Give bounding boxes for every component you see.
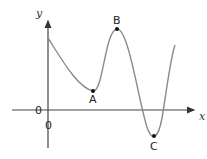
- function-graph: A B C x y 0 0: [0, 0, 207, 159]
- point-b-label: B: [113, 14, 121, 27]
- point-c-label: C: [150, 140, 158, 153]
- point-c: [152, 134, 156, 138]
- origin-label-left: 0: [35, 104, 42, 117]
- point-a-label: A: [89, 93, 97, 106]
- origin-label-below: 0: [45, 119, 52, 132]
- function-curve: [48, 29, 175, 136]
- y-axis-label: y: [35, 7, 43, 20]
- point-b: [115, 27, 119, 31]
- x-axis-label: x: [199, 110, 206, 123]
